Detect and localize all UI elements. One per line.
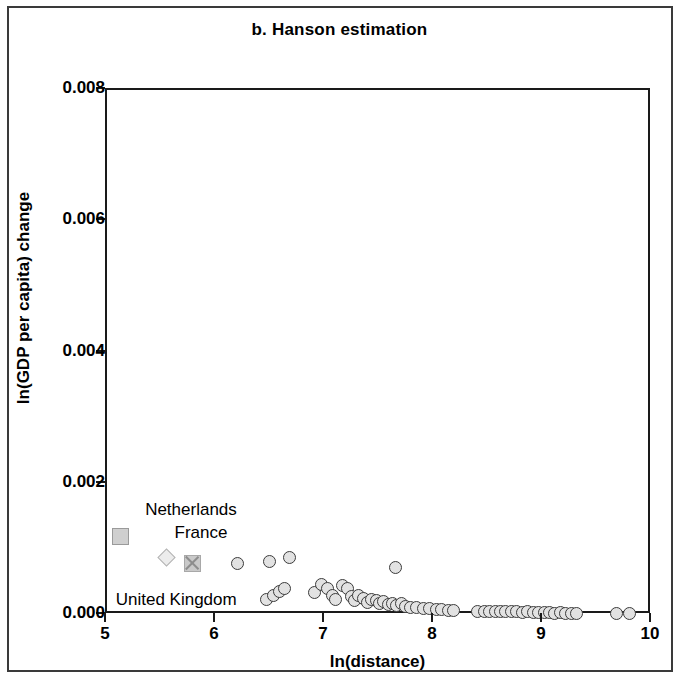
x-axis-tick-label: 8 (412, 624, 452, 644)
x-axis-tick-mark (431, 613, 433, 622)
figure-root: b. Hanson estimation NetherlandsFranceUn… (0, 0, 679, 684)
x-axis-title: ln(distance) (105, 652, 650, 672)
plot-area: NetherlandsFranceUnited Kingdom (105, 88, 650, 613)
x-axis-tick-label: 10 (630, 624, 670, 644)
annotation-label-france: France (175, 523, 228, 543)
marker-square-netherlands (112, 528, 129, 545)
annotation-label-netherlands: Netherlands (145, 500, 237, 520)
y-axis-title: ln(GDP per capita) change (14, 88, 34, 508)
x-axis-tick-mark (104, 613, 106, 622)
x-axis-tick-mark (213, 613, 215, 622)
x-axis-tick-label: 7 (303, 624, 343, 644)
marker-x-square-united-kingdom (184, 555, 201, 572)
annotations-layer: NetherlandsFranceUnited Kingdom (107, 90, 648, 611)
x-axis-tick-mark (540, 613, 542, 622)
x-axis-tick-label: 6 (194, 624, 234, 644)
annotation-label-united-kingdom: United Kingdom (116, 590, 237, 610)
x-axis-tick-mark (322, 613, 324, 622)
y-axis-tick-label: 0.000 (20, 603, 105, 623)
chart-title: b. Hanson estimation (0, 20, 679, 40)
x-axis-tick-mark (649, 613, 651, 622)
marker-diamond-france (157, 549, 175, 567)
x-axis-tick-label: 9 (521, 624, 561, 644)
x-axis-tick-label: 5 (85, 624, 125, 644)
